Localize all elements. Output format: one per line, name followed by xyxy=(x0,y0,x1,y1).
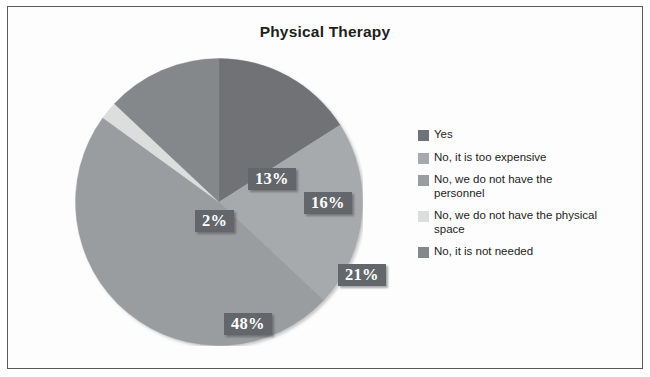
chart-figure: Physical Therapy 16% 21% 48% 2% 13% YesN… xyxy=(0,0,650,377)
slice-label-personnel: 48% xyxy=(224,313,272,335)
legend-item: No, we do not have the physical space xyxy=(418,209,603,236)
slice-label-not-needed: 13% xyxy=(248,168,296,190)
legend-swatch-icon xyxy=(418,130,429,141)
legend-swatch-icon xyxy=(418,153,429,164)
slice-label-physical-space: 2% xyxy=(195,210,234,232)
slice-label-yes: 16% xyxy=(304,192,352,214)
legend-item: No, it is not needed xyxy=(418,245,603,259)
legend-swatch-icon xyxy=(418,175,429,186)
legend-item: No, we do not have the personnel xyxy=(418,173,603,200)
legend-item: Yes xyxy=(418,128,603,142)
legend-swatch-icon xyxy=(418,247,429,258)
legend-item-label: No, it is not needed xyxy=(434,245,533,259)
legend-item-label: No, it is too expensive xyxy=(434,151,547,165)
slice-label-too-expensive: 21% xyxy=(338,264,386,286)
legend-item: No, it is too expensive xyxy=(418,151,603,165)
legend-item-label: Yes xyxy=(434,128,453,142)
legend-item-label: No, we do not have the personnel xyxy=(434,173,603,200)
chart-title: Physical Therapy xyxy=(0,23,650,41)
legend-item-label: No, we do not have the physical space xyxy=(434,209,603,236)
chart-legend: YesNo, it is too expensiveNo, we do not … xyxy=(418,128,603,268)
pie-chart: 16% 21% 48% 2% 13% xyxy=(75,58,363,346)
legend-swatch-icon xyxy=(418,211,429,222)
